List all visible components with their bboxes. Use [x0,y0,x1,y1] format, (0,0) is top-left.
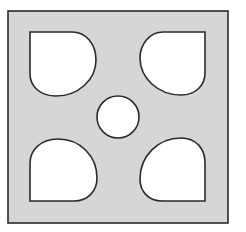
center-hole [97,96,139,138]
plate-diagram [0,0,246,232]
